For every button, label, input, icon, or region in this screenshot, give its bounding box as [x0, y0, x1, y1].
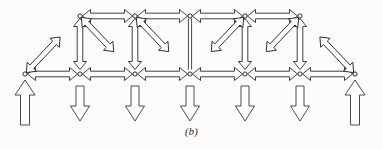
joint-L5 [298, 72, 302, 76]
load-arrow-L1 [71, 86, 90, 121]
member-vert-U4-L4 [239, 19, 252, 70]
applied-loads [71, 86, 310, 121]
joint-L0 [23, 72, 27, 76]
load-arrow-L2 [126, 86, 145, 121]
load-arrow-L5 [291, 86, 310, 121]
joint-U5 [298, 14, 302, 18]
joint-L3 [188, 72, 192, 76]
truss-figure: (b) [0, 0, 383, 149]
joint-U3 [188, 14, 192, 18]
reaction-left-arrow [15, 80, 35, 125]
member-end-diag-L0-U1 [22, 33, 65, 77]
load-arrow-L3 [181, 86, 200, 121]
member-vert-U1-L1 [74, 19, 87, 70]
interior-diagonals [77, 13, 304, 56]
member-end-diag-L6-U5 [315, 33, 358, 77]
joint-L6 [353, 72, 357, 76]
member-bottom-L2-L3 [138, 68, 188, 81]
joint-L2 [133, 72, 137, 76]
joint-U1 [78, 14, 82, 18]
member-vert-U3-L3-zero [188, 19, 191, 70]
joint-L1 [78, 72, 82, 76]
member-bottom-L4-L5 [248, 68, 298, 81]
member-vert-U5-L5 [294, 19, 307, 70]
joints [23, 14, 357, 76]
joint-U2 [133, 14, 137, 18]
joint-U4 [243, 14, 247, 18]
load-arrow-L4 [236, 86, 255, 121]
member-vert-U2-L2 [129, 19, 142, 70]
figure-caption: (b) [0, 126, 383, 137]
reaction-right-arrow [345, 80, 365, 125]
joint-L4 [243, 72, 247, 76]
member-bottom-L1-L2 [83, 68, 133, 81]
member-bottom-L3-L4 [193, 68, 243, 81]
